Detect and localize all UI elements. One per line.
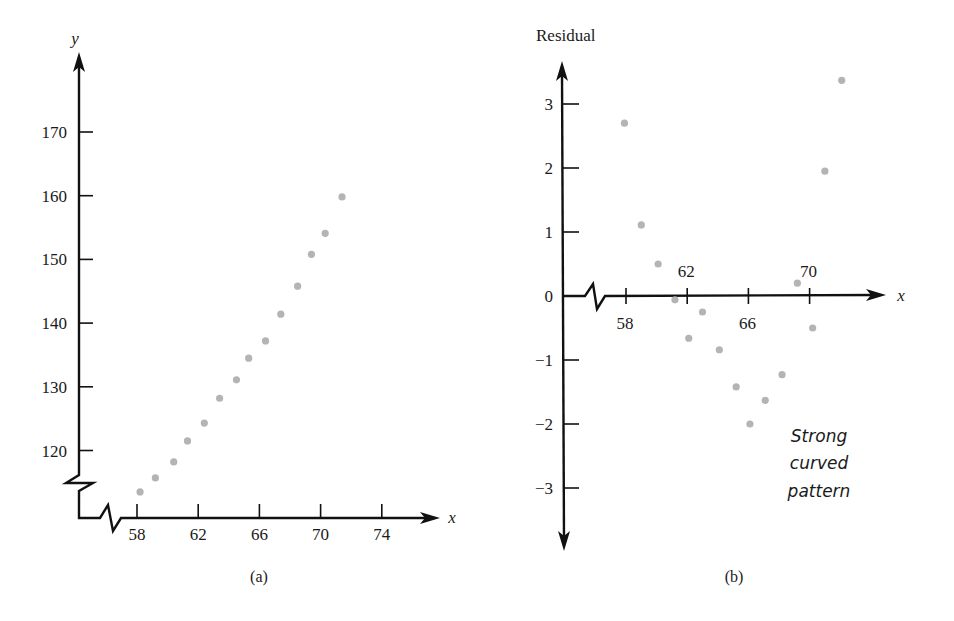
residual-point [671, 296, 678, 303]
residual-point [778, 371, 785, 378]
y-tick-label: −1 [535, 351, 553, 370]
y-tick-label: 150 [42, 250, 68, 269]
data-point [216, 395, 223, 402]
chart-b: Residual x −3−2−10123 58626670 Strong cu… [535, 26, 905, 586]
chart-a-y-ticks: 120130140150160170 [42, 123, 94, 461]
y-tick-label: −3 [535, 479, 553, 498]
svg-text:pattern: pattern [787, 481, 851, 501]
data-point [136, 488, 143, 495]
residual-point [638, 221, 645, 228]
chart-b-caption: (b) [725, 568, 744, 586]
y-tick-label: 170 [42, 123, 68, 142]
residual-point [821, 168, 828, 175]
data-point [184, 437, 191, 444]
residual-point [809, 324, 816, 331]
x-tick-label: 70 [800, 262, 817, 281]
chart-a-points [136, 193, 345, 495]
residual-point [699, 308, 706, 315]
y-tick-label: 140 [42, 314, 68, 333]
x-tick-label: 62 [678, 262, 695, 281]
chart-a-xlabel: x [447, 508, 456, 527]
data-point [201, 420, 208, 427]
chart-a-x-ticks: 5862667074 [129, 504, 391, 544]
chart-b-annotation: Strong curved pattern [787, 426, 851, 501]
y-tick-label: 2 [545, 159, 554, 178]
y-tick-label: 0 [545, 287, 554, 306]
y-tick-label: 3 [545, 95, 554, 114]
data-point [308, 251, 315, 258]
data-point [262, 337, 269, 344]
svg-text:curved: curved [790, 453, 849, 473]
residual-point [794, 280, 801, 287]
data-point [245, 355, 252, 362]
x-tick-label: 58 [129, 525, 146, 544]
svg-text:Strong: Strong [791, 426, 848, 446]
residual-point [746, 420, 753, 427]
y-tick-label: −2 [535, 415, 553, 434]
chart-a-y-axis [66, 62, 432, 531]
x-tick-label: 70 [312, 525, 329, 544]
data-point [170, 458, 177, 465]
chart-b-xlabel: x [896, 286, 905, 305]
x-tick-label: 58 [617, 314, 634, 333]
x-tick-label: 74 [373, 525, 391, 544]
chart-b-points [621, 77, 845, 428]
chart-b-x-axis [563, 284, 878, 309]
y-tick-label: 1 [545, 223, 554, 242]
y-tick-label: 160 [42, 187, 68, 206]
data-point [233, 376, 240, 383]
data-point [322, 230, 329, 237]
residual-point [838, 77, 845, 84]
x-tick-label: 66 [739, 314, 756, 333]
residual-point [733, 383, 740, 390]
data-point [152, 474, 159, 481]
residual-point [762, 397, 769, 404]
residual-point [685, 335, 692, 342]
residual-point [621, 120, 628, 127]
chart-a: y x 120130140150160170 5862667074 (a) [42, 29, 457, 586]
y-tick-label: 130 [42, 378, 68, 397]
residual-point [655, 260, 662, 267]
data-point [294, 283, 301, 290]
x-tick-label: 66 [251, 525, 268, 544]
y-tick-label: 120 [42, 442, 68, 461]
chart-b-ylabel: Residual [536, 26, 596, 45]
chart-a-caption: (a) [250, 568, 268, 586]
chart-a-ylabel: y [69, 29, 79, 48]
chart-b-x-ticks: 58626670 [617, 262, 818, 333]
data-point [277, 311, 284, 318]
residual-point [716, 346, 723, 353]
chart-b-y-axis [562, 72, 564, 540]
data-point [338, 193, 345, 200]
x-tick-label: 62 [190, 525, 207, 544]
